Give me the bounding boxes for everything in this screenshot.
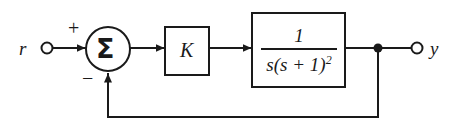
output-terminal-circle [412, 43, 423, 54]
input-signal-label: r [19, 39, 26, 58]
transfer-function-numerator: 1 [294, 26, 304, 48]
takeoff-junction-dot [374, 44, 383, 53]
output-signal-label: y [430, 39, 438, 58]
gain-block-label: K [180, 40, 193, 60]
transfer-function-expression: 1 s(s + 1)2 [254, 15, 344, 85]
summing-junction-minus-sign: − [82, 68, 93, 88]
denominator-base: s(s + 1) [266, 54, 325, 75]
block-diagram: r + Σ − K 1 s(s + 1)2 y [0, 0, 467, 128]
sigma-icon: Σ [96, 35, 114, 62]
input-terminal-circle [42, 43, 53, 54]
summing-junction-plus-sign: + [68, 18, 79, 38]
transfer-function-denominator: s(s + 1)2 [266, 50, 331, 74]
denominator-exponent: 2 [326, 53, 332, 67]
